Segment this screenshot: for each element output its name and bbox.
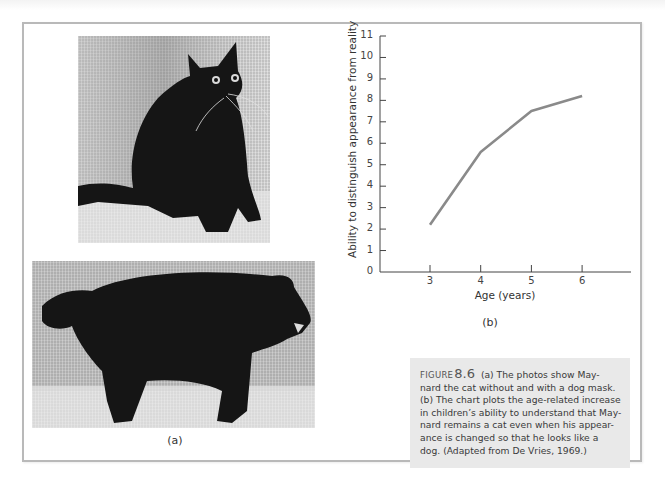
cat-in-dog-mask-image	[32, 261, 315, 428]
caption-text: (a) The photos show May-	[481, 369, 600, 380]
caption-line-5: nard remains a cat even when his appear-	[420, 419, 622, 432]
figure-caption: FIGURE8.6 (a) The photos show May- nard …	[410, 358, 630, 468]
caption-line-7: dog. (Adapted from De Vries, 1969.)	[420, 445, 622, 458]
y-tick-label: 0	[353, 265, 373, 276]
page-top-strip	[0, 0, 665, 10]
caption-line-6: ance is changed so that he looks like a	[420, 432, 622, 445]
x-tick-label: 5	[521, 275, 541, 286]
figure-number: 8.6	[454, 366, 475, 381]
x-ticks	[430, 265, 582, 272]
caption-line-2: nard the cat without and with a dog mask…	[420, 382, 622, 395]
panel-a-label: (a)	[150, 434, 200, 447]
caption-line-1: FIGURE8.6 (a) The photos show May-	[420, 368, 622, 382]
caption-line-3: (b) The chart plots the age-related incr…	[420, 394, 622, 407]
photo-cat-without-mask	[78, 36, 270, 243]
panel-b-label: (b)	[470, 316, 510, 329]
x-tick-label: 3	[420, 275, 440, 286]
caption-line-4: in children’s ability to understand that…	[420, 407, 622, 420]
data-series-line	[430, 96, 582, 225]
x-axis-label: Age (years)	[455, 289, 555, 301]
y-ticks	[380, 36, 386, 251]
x-tick-label: 4	[471, 275, 491, 286]
figure-word: FIGURE	[420, 370, 453, 380]
y-axis-label: Ability to distinguish appearance from r…	[346, 48, 360, 258]
x-tick-label: 6	[572, 275, 592, 286]
cat-sitting-image	[78, 36, 270, 243]
photo-cat-with-dog-mask	[32, 261, 315, 428]
